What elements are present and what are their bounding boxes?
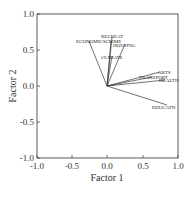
ytick-label: 1.0 <box>23 9 35 19</box>
ytick-label: -0.5 <box>20 117 35 127</box>
x-axis-label: Factor 1 <box>90 172 123 183</box>
xtick-label: 0.0 <box>101 161 113 171</box>
xtick-label: 1.0 <box>172 161 184 171</box>
ytick-label: 0.0 <box>23 81 35 91</box>
ytick-label: 0.5 <box>23 45 35 55</box>
label-health: HEALTH <box>159 78 179 83</box>
xtick-label: -1.0 <box>30 161 45 171</box>
vector-housing <box>107 44 125 86</box>
y-axis-label: Factor 2 <box>7 69 18 102</box>
vector-educatn <box>107 86 167 105</box>
xtick-label: 0.5 <box>137 161 149 171</box>
vector-health <box>107 80 165 86</box>
label-educatn: EDUCATN <box>152 105 176 110</box>
vector-economics <box>89 41 107 86</box>
label-climate: CLIMATE <box>101 55 123 60</box>
biplot: 1.0 0.5 0.0 -0.5 -1.0 -1.0 -0.5 0.0 0.5 … <box>0 0 192 197</box>
xtick-label: -0.5 <box>65 161 80 171</box>
label-housing: HOUSING <box>113 43 136 48</box>
